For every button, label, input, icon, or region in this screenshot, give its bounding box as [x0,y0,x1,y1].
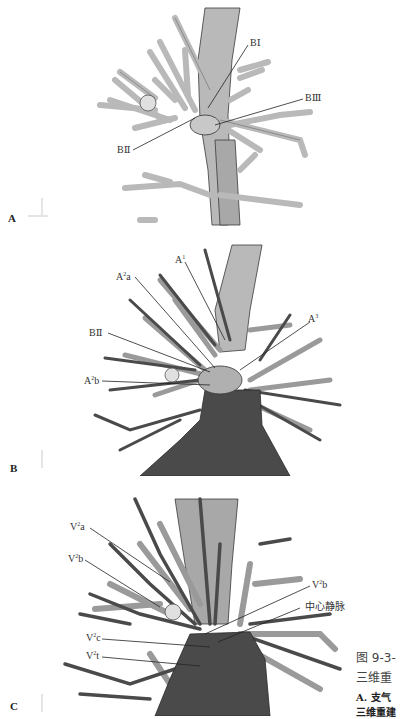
label-v2c: V2c [86,633,101,643]
caption-line-2: 三维重 [356,668,392,685]
panel-b: A1 A2a A3 BⅡ A2b B [0,240,406,476]
label-v2t: V2t [86,651,99,661]
caption-line-3: A. 支气 [356,689,391,704]
label-v2b-left: V2b [68,554,83,564]
panel-letter-b: B [10,462,17,474]
label-b2: BⅡ [89,328,102,338]
panel-a: BⅠ BⅢ BⅡ A [0,0,406,232]
nodule [165,604,181,620]
caption-line-1: 图 9-3- [356,648,396,665]
label-a1: A1 [175,255,185,265]
label-a2b: A2b [84,376,99,386]
label-b3: BⅢ [305,93,321,103]
nodule [165,368,179,382]
panel-letter-c: C [10,700,18,712]
caption-line-4: 三维重建 [356,704,396,719]
label-v2b-right: V2b [312,580,327,590]
artery-bronchus-3d-render [0,240,406,476]
vein-artery-bronchus-3d-render [0,484,406,716]
label-a3: A3 [308,314,318,324]
label-a2a: A2a [116,272,131,282]
label-v2a: V2a [70,522,85,532]
panel-c: V2a V2b V2b 中心静脉 V2c V2t C [0,484,406,716]
label-b2: BⅡ [117,145,130,155]
label-central-vein: 中心静脉 [305,602,345,612]
label-b1: BⅠ [250,38,261,48]
nodule [140,95,156,111]
panel-letter-a: A [8,212,16,224]
bronchus-3d-render [0,0,406,232]
